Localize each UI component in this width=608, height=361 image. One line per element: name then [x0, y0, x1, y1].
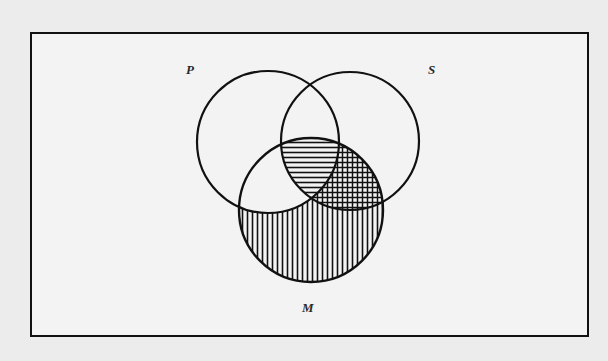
venn-diagram: P S M	[0, 0, 608, 361]
label-s: S	[428, 62, 435, 77]
label-p: P	[186, 62, 195, 77]
label-m: M	[301, 300, 314, 315]
venn-diagram-page: P S M	[0, 0, 608, 361]
